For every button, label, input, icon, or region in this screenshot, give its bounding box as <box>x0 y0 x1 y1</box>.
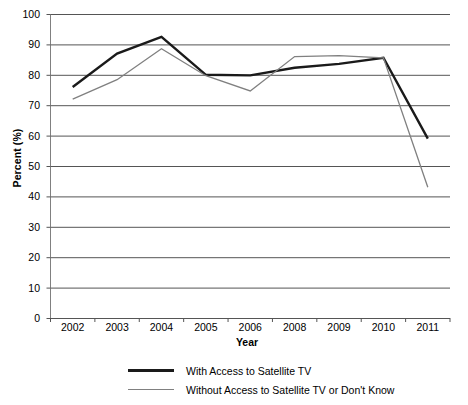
y-axis-tick-label: 90 <box>10 39 40 50</box>
series-line <box>73 37 428 139</box>
x-axis-tick-label: 2004 <box>137 322 185 333</box>
gridlines <box>51 15 451 289</box>
y-axis-tick-label: 20 <box>10 252 40 263</box>
legend-item-label: Without Access to Satellite TV or Don't … <box>186 384 394 396</box>
x-axis-tick-label: 2009 <box>315 322 363 333</box>
legend-line-swatch-icon <box>128 386 174 394</box>
x-axis-tick-label: 2010 <box>359 322 407 333</box>
y-axis-tick-label: 10 <box>10 283 40 294</box>
y-axis-tick-label: 40 <box>10 191 40 202</box>
y-axis-tick-label: 0 <box>10 313 40 324</box>
x-axis-tick-label: 2002 <box>49 322 97 333</box>
line-chart: Percent (%) Year 0102030405060708090100 … <box>0 0 468 405</box>
y-axis-tick-label: 60 <box>10 131 40 142</box>
y-axis-tick-label: 100 <box>10 9 40 20</box>
y-axis-ticks <box>47 15 51 319</box>
y-axis-tick-label: 80 <box>10 70 40 81</box>
legend-item-label: With Access to Satellite TV <box>186 365 311 377</box>
y-axis-tick-label: 50 <box>10 161 40 172</box>
x-axis-tick-label: 2003 <box>93 322 141 333</box>
legend-item: With Access to Satellite TV <box>128 361 458 380</box>
x-axis-tick-label: 2005 <box>182 322 230 333</box>
chart-legend: With Access to Satellite TV Without Acce… <box>128 361 458 399</box>
legend-line-swatch-icon <box>128 367 174 375</box>
legend-item: Without Access to Satellite TV or Don't … <box>128 380 458 399</box>
y-axis-tick-label: 70 <box>10 100 40 111</box>
x-axis-tick-label: 2006 <box>226 322 274 333</box>
y-axis-tick-label: 30 <box>10 222 40 233</box>
series-lines <box>73 37 428 187</box>
x-axis-tick-label: 2011 <box>404 322 452 333</box>
x-axis-title: Year <box>40 336 454 348</box>
x-axis-tick-label: 2008 <box>271 322 319 333</box>
